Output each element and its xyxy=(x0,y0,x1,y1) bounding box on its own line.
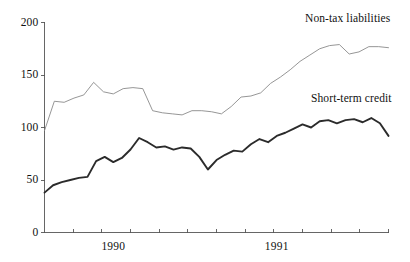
x-axis-tick-label: 1991 xyxy=(247,241,307,253)
series-annotation-label: Non-tax liabilities xyxy=(305,12,390,24)
chart-plot-area xyxy=(0,0,410,262)
y-axis-tick-label: 200 xyxy=(21,17,39,29)
y-axis-tick-label: 100 xyxy=(21,122,39,134)
x-axis-tick-label: 1990 xyxy=(83,241,143,253)
series-line-0 xyxy=(45,45,389,131)
series-line-1 xyxy=(45,118,389,193)
y-axis-tick-label: 0 xyxy=(33,227,39,239)
line-chart: 05010015020019901991Non-tax liabilitiesS… xyxy=(0,0,410,262)
y-axis-tick-label: 150 xyxy=(21,69,39,81)
series-annotation-label: Short-term credit xyxy=(311,92,392,104)
y-axis-tick-label: 50 xyxy=(27,174,39,186)
